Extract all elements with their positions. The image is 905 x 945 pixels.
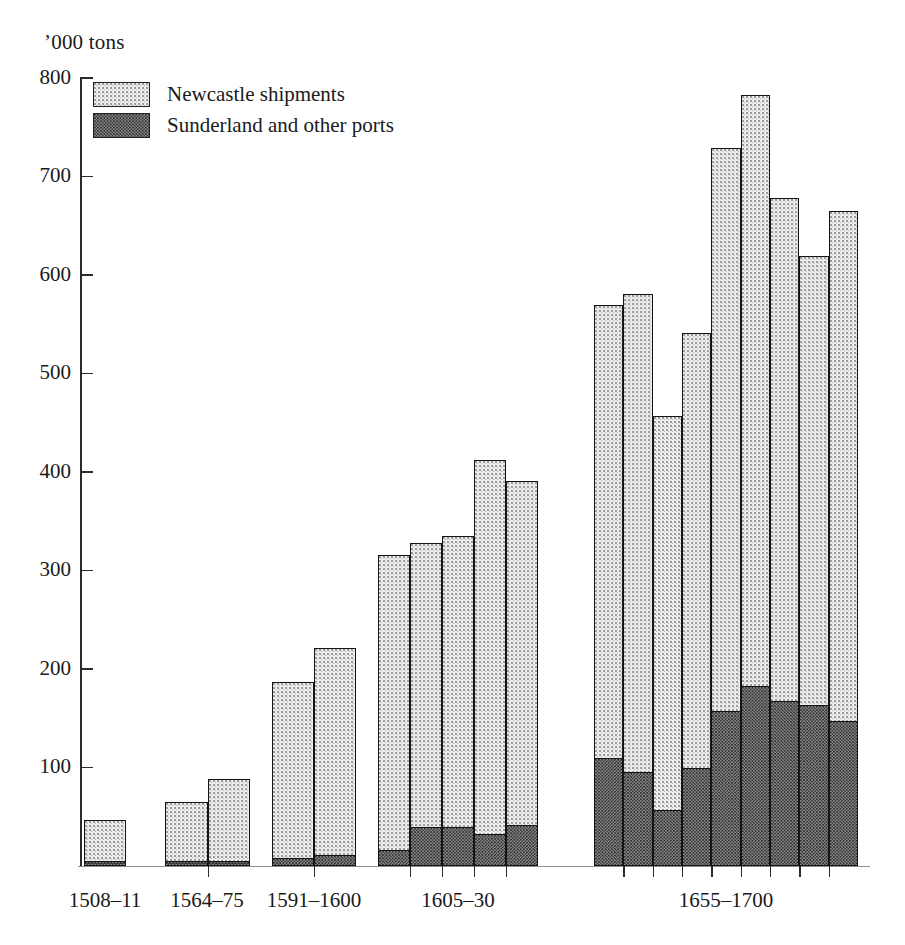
- bar-segment-newcastle: [272, 682, 314, 858]
- bar-segment-sunderland: [829, 721, 858, 866]
- bar-segment-sunderland: [474, 834, 506, 867]
- bar-segment-sunderland: [165, 861, 208, 866]
- bar-segment-sunderland: [594, 758, 623, 866]
- bar: [272, 682, 314, 866]
- bar: [378, 555, 410, 866]
- bar: [799, 256, 828, 866]
- bar-segment-newcastle: [799, 256, 828, 705]
- bar: [594, 305, 623, 866]
- bar: [410, 543, 442, 866]
- bar-segment-sunderland: [741, 686, 770, 866]
- bar-segment-sunderland: [653, 810, 682, 866]
- legend-label: Newcastle shipments: [167, 84, 345, 105]
- bar-segment-sunderland: [623, 772, 652, 866]
- x-axis-tick: [653, 866, 654, 877]
- bar-segment-newcastle: [314, 648, 356, 855]
- bar-segment-newcastle: [208, 779, 251, 861]
- y-axis-tick-label: 100: [40, 757, 72, 778]
- y-axis-tick-label: 800: [40, 67, 72, 88]
- bar-segment-sunderland: [410, 827, 442, 866]
- x-axis-tick: [741, 866, 742, 877]
- bar-segment-sunderland: [770, 701, 799, 866]
- bar-segment-sunderland: [208, 861, 251, 866]
- legend-swatch-sunderland: [93, 113, 150, 138]
- bar: [682, 333, 711, 866]
- bar: [653, 416, 682, 866]
- bar-group: [272, 78, 356, 866]
- bar-segment-sunderland: [711, 711, 740, 866]
- bar-group: [84, 78, 126, 866]
- bar-segment-newcastle: [378, 555, 410, 851]
- bar-segment-newcastle: [623, 294, 652, 773]
- bar-segment-newcastle: [682, 333, 711, 767]
- bar-group: [165, 78, 250, 866]
- y-axis-tick-label: 400: [40, 461, 72, 482]
- bar-segment-newcastle: [741, 95, 770, 686]
- x-axis-tick: [410, 866, 411, 877]
- legend-swatch-newcastle: [93, 82, 150, 107]
- bar-segment-newcastle: [442, 536, 474, 827]
- bar-segment-newcastle: [474, 460, 506, 833]
- legend-item: Newcastle shipments: [93, 80, 394, 109]
- bar-segment-sunderland: [272, 858, 314, 866]
- bar: [474, 460, 506, 866]
- y-axis-tick-label: 700: [40, 166, 72, 187]
- bar-segment-newcastle: [165, 802, 208, 861]
- bar: [829, 211, 858, 866]
- x-axis-tick: [474, 866, 475, 877]
- bar-segment-sunderland: [506, 825, 538, 866]
- x-axis-group-label: 1508–11: [69, 890, 142, 911]
- y-axis-tick-label: 200: [40, 658, 72, 679]
- bar-segment-sunderland: [442, 827, 474, 866]
- bar: [314, 648, 356, 866]
- bar-segment-sunderland: [682, 768, 711, 867]
- y-axis-tick-label: 600: [40, 264, 72, 285]
- bar: [165, 802, 208, 866]
- y-axis-tick-label: 300: [40, 560, 72, 581]
- bar: [623, 294, 652, 866]
- bar-segment-newcastle: [84, 820, 126, 861]
- bar-segment-newcastle: [653, 416, 682, 810]
- bar-group: [378, 78, 538, 866]
- x-axis-tick: [442, 866, 443, 877]
- x-axis-tick: [682, 866, 683, 877]
- bar: [208, 779, 251, 866]
- legend-label: Sunderland and other ports: [167, 115, 394, 136]
- bar: [711, 148, 740, 866]
- x-axis-tick: [829, 866, 830, 877]
- bar-segment-newcastle: [594, 305, 623, 758]
- legend-item: Sunderland and other ports: [93, 111, 394, 140]
- bar-segment-sunderland: [378, 850, 410, 866]
- x-axis-tick: [799, 866, 800, 877]
- y-axis-tick-label: 500: [40, 363, 72, 384]
- bar-segment-newcastle: [506, 481, 538, 825]
- x-axis-tick: [770, 866, 771, 877]
- bar-segment-sunderland: [84, 861, 126, 866]
- bar: [506, 481, 538, 866]
- bar-segment-sunderland: [314, 855, 356, 866]
- bar: [442, 536, 474, 866]
- x-axis-group-label: 1655–1700: [679, 890, 774, 911]
- bar: [770, 198, 799, 866]
- bar-segment-newcastle: [410, 543, 442, 827]
- bar-segment-newcastle: [829, 211, 858, 721]
- bar-segment-newcastle: [711, 148, 740, 711]
- y-axis-unit-caption: ’000 tons: [44, 30, 125, 55]
- bar-group: [594, 78, 858, 866]
- x-axis-tick: [623, 866, 624, 877]
- x-axis-tick: [314, 866, 315, 877]
- chart-legend: Newcastle shipmentsSunderland and other …: [93, 80, 394, 142]
- x-axis-tick: [208, 866, 209, 877]
- x-axis-tick: [506, 866, 507, 877]
- x-axis-group-label: 1564–75: [170, 890, 244, 911]
- x-axis-tick: [711, 866, 712, 877]
- bar: [84, 820, 126, 866]
- x-axis-group-label: 1591–1600: [267, 890, 362, 911]
- coal-shipments-chart: ’000 tons 800700600500400300200100 1508–…: [0, 0, 905, 945]
- bar-segment-sunderland: [799, 705, 828, 866]
- bar: [741, 95, 770, 866]
- plot-area: 800700600500400300200100 1508–111564–751…: [80, 78, 870, 866]
- bar-segment-newcastle: [770, 198, 799, 700]
- x-axis-group-label: 1605–30: [421, 890, 495, 911]
